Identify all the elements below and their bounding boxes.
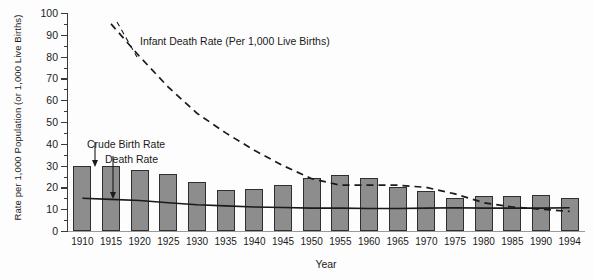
y-tick-15 xyxy=(64,198,68,199)
bar-1915 xyxy=(102,166,120,231)
y-tick-label-80: 80 xyxy=(46,51,58,62)
y-tick-45 xyxy=(64,133,68,134)
y-tick-label-0: 0 xyxy=(52,226,58,237)
bar-1940 xyxy=(245,189,263,232)
x-tick-label-1915: 1915 xyxy=(100,236,122,247)
y-tick-75 xyxy=(64,68,68,69)
y-tick-label-20: 20 xyxy=(46,182,58,193)
bar-1925 xyxy=(159,174,177,231)
x-tick-label-1930: 1930 xyxy=(186,236,208,247)
bar-1930 xyxy=(188,182,206,231)
x-tick-label-1994: 1994 xyxy=(559,236,581,247)
y-tick-10 xyxy=(61,209,68,210)
y-tick-95 xyxy=(64,24,68,25)
bar-1965 xyxy=(389,187,407,231)
y-tick-60 xyxy=(61,100,68,101)
x-tick-label-1975: 1975 xyxy=(444,236,466,247)
bar-1975 xyxy=(446,198,464,231)
y-tick-25 xyxy=(64,177,68,178)
y-tick-90 xyxy=(61,35,68,36)
bar-1955 xyxy=(331,175,349,231)
x-tick-label-1980: 1980 xyxy=(473,236,495,247)
y-tick-label-10: 10 xyxy=(46,204,58,215)
y-tick-label-60: 60 xyxy=(46,95,58,106)
y-axis-title: Rate per 1,000 Population (or 1,000 Live… xyxy=(12,3,23,233)
x-tick-label-1990: 1990 xyxy=(530,236,552,247)
y-tick-80 xyxy=(61,57,68,58)
bar-1950 xyxy=(303,178,321,231)
bar-1960 xyxy=(360,178,378,231)
bar-1935 xyxy=(217,190,235,231)
x-tick-label-1945: 1945 xyxy=(272,236,294,247)
y-tick-5 xyxy=(64,220,68,221)
x-tick-label-1940: 1940 xyxy=(243,236,265,247)
bar-1945 xyxy=(274,185,292,231)
y-tick-100 xyxy=(61,13,68,14)
x-tick-label-1910: 1910 xyxy=(71,236,93,247)
y-tick-65 xyxy=(64,89,68,90)
bar-1970 xyxy=(417,191,435,231)
x-axis-title: Year xyxy=(68,258,584,270)
y-tick-label-100: 100 xyxy=(40,8,58,19)
bar-1980 xyxy=(475,196,493,231)
y-tick-85 xyxy=(64,46,68,47)
bar-1920 xyxy=(131,170,149,231)
y-tick-35 xyxy=(64,155,68,156)
y-tick-label-70: 70 xyxy=(46,73,58,84)
bar-1994 xyxy=(561,198,579,231)
chart-figure: Rate per 1,000 Population (or 1,000 Live… xyxy=(0,0,593,280)
y-tick-label-30: 30 xyxy=(46,160,58,171)
y-tick-label-50: 50 xyxy=(46,117,58,128)
x-tick-label-1955: 1955 xyxy=(329,236,351,247)
bar-1985 xyxy=(503,196,521,231)
y-tick-20 xyxy=(61,187,68,188)
y-tick-0 xyxy=(61,231,68,232)
x-tick-label-1950: 1950 xyxy=(301,236,323,247)
y-tick-label-90: 90 xyxy=(46,30,58,41)
infant-death-rate-label: Infant Death Rate (Per 1,000 Live Births… xyxy=(140,35,330,47)
y-tick-55 xyxy=(64,111,68,112)
x-tick-label-1985: 1985 xyxy=(501,236,523,247)
y-tick-40 xyxy=(61,144,68,145)
x-axis-line xyxy=(67,231,585,232)
y-tick-70 xyxy=(61,78,68,79)
x-tick-label-1965: 1965 xyxy=(387,236,409,247)
death-rate-label: Death Rate xyxy=(105,153,158,165)
x-tick-label-1925: 1925 xyxy=(157,236,179,247)
x-tick-label-1960: 1960 xyxy=(358,236,380,247)
bar-1990 xyxy=(532,195,550,231)
x-tick-label-1920: 1920 xyxy=(129,236,151,247)
x-tick-label-1935: 1935 xyxy=(215,236,237,247)
y-tick-30 xyxy=(61,166,68,167)
crude-birth-rate-label: Crude Birth Rate xyxy=(87,138,165,150)
x-tick-label-1970: 1970 xyxy=(415,236,437,247)
y-tick-50 xyxy=(61,122,68,123)
y-tick-label-40: 40 xyxy=(46,139,58,150)
bar-1910 xyxy=(73,166,91,231)
